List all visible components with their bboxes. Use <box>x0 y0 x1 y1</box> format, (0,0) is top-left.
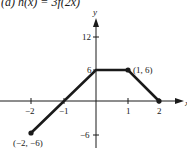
graph: y x −2 −1 1 2 12 6 −6 (−2, −6) (1, 6) <box>0 0 187 150</box>
point-label-1-6: (1, 6) <box>133 65 153 75</box>
point-neg2-neg6 <box>28 130 33 135</box>
tick-label-x-1: 1 <box>126 106 131 116</box>
point-1-6 <box>125 67 130 72</box>
tick-label-y-neg6: −6 <box>80 130 90 140</box>
y-axis-arrow-icon <box>93 18 99 27</box>
tick-label-x-neg2: −2 <box>25 106 35 116</box>
point-label-neg2-neg6: (−2, −6) <box>13 138 43 148</box>
tick-label-x-neg1: −1 <box>59 106 69 116</box>
y-axis-label: y <box>92 7 97 17</box>
x-axis-arrow-icon <box>175 98 184 104</box>
tick-label-x-2: 2 <box>157 106 162 116</box>
point-2-0 <box>156 98 161 103</box>
tick-label-y-12: 12 <box>82 32 91 42</box>
x-axis-label: x <box>184 98 187 108</box>
